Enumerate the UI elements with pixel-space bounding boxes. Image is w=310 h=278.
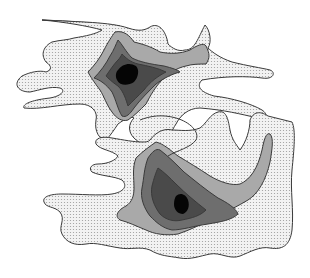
contour-figure: [0, 0, 310, 278]
contour-plot: [0, 0, 310, 278]
